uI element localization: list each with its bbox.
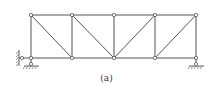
hinge-node-icon	[70, 13, 73, 16]
left-wall-support-icon	[16, 50, 29, 66]
hinge-node-icon	[29, 56, 32, 59]
right-roller-support-icon	[188, 59, 204, 69]
hinge-node-icon	[153, 13, 156, 16]
hinge-node-icon	[194, 13, 197, 16]
truss-member	[155, 15, 196, 58]
hinge-node-icon	[112, 56, 115, 59]
hinge-node-icon	[70, 56, 73, 59]
hinge-node-icon	[29, 13, 32, 16]
truss-member	[114, 15, 155, 58]
left-roller-support-icon	[23, 59, 39, 69]
hinge-node-icon	[153, 56, 156, 59]
truss-members	[31, 15, 196, 58]
truss-member	[31, 15, 72, 58]
figure-caption: (a)	[0, 73, 213, 83]
hinge-node-icon	[112, 13, 115, 16]
supports	[16, 50, 204, 69]
hinge-node-icon	[194, 56, 197, 59]
truss-member	[72, 15, 114, 58]
